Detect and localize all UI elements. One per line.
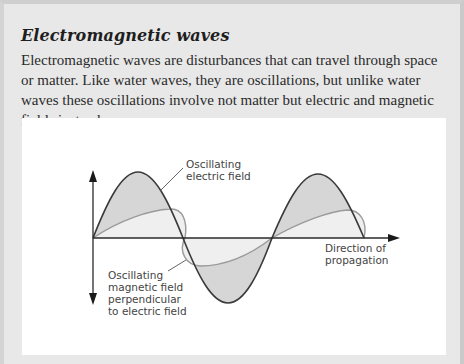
arrow-down-icon xyxy=(89,293,97,305)
em-wave-diagram: Oscillating electric field Oscillating m… xyxy=(0,0,464,364)
direction-label-1: Direction of xyxy=(325,242,386,254)
magnetic-label-4: to electric field xyxy=(108,305,187,317)
arrow-right-icon xyxy=(388,234,400,242)
magnetic-label-2: magnetic field xyxy=(108,281,183,293)
electric-label-2: electric field xyxy=(186,170,251,182)
electric-leader-line xyxy=(160,168,183,191)
electric-label-1: Oscillating xyxy=(186,158,241,170)
magnetic-leader-line xyxy=(168,260,186,271)
magnetic-label-1: Oscillating xyxy=(108,269,163,281)
magnetic-label-3: perpendicular xyxy=(108,293,182,305)
arrow-up-icon xyxy=(89,170,97,182)
direction-label-2: propagation xyxy=(325,254,389,266)
